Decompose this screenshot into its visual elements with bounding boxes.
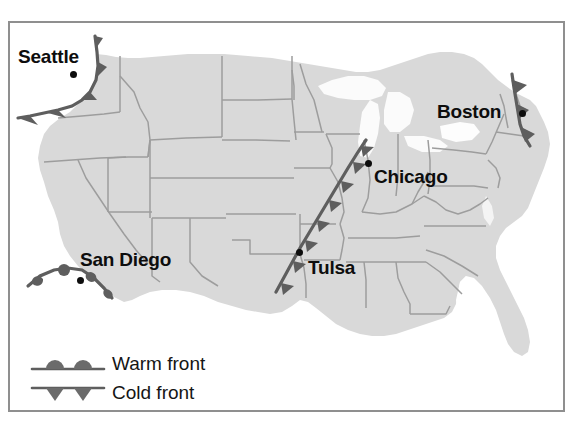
weather-map-figure: Seattle Boston Chicago San Diego Tulsa W…: [0, 0, 587, 424]
city-dot-boston: [519, 110, 526, 117]
legend-label-cold-front: Cold front: [112, 381, 194, 405]
city-label-boston: Boston: [437, 102, 501, 121]
city-label-san-diego: San Diego: [80, 250, 171, 269]
city-label-chicago: Chicago: [374, 167, 448, 186]
city-label-tulsa: Tulsa: [308, 258, 355, 277]
city-dot-tulsa: [296, 249, 303, 256]
legend-row-cold-front: Cold front: [30, 381, 250, 407]
city-dot-seattle: [70, 71, 77, 78]
city-label-seattle: Seattle: [18, 47, 79, 66]
warm-front-symbol: [30, 352, 106, 376]
legend-row-warm-front: Warm front: [30, 352, 250, 378]
cold-front-symbol: [30, 381, 106, 405]
city-dot-san-diego: [77, 277, 84, 284]
city-dot-chicago: [365, 160, 372, 167]
map-legend: Warm front Cold front: [30, 352, 250, 408]
legend-label-warm-front: Warm front: [112, 352, 205, 376]
